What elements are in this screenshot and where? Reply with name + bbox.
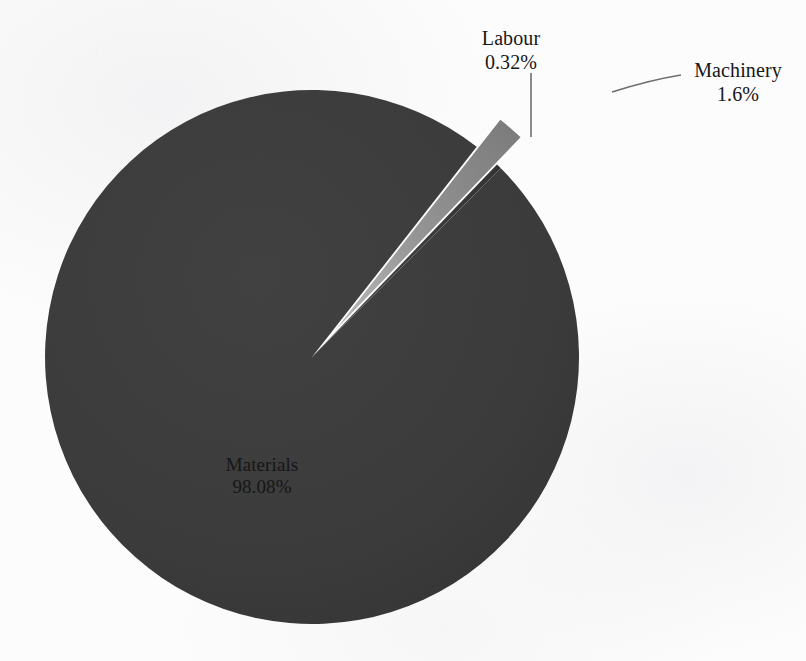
- slice-label-machinery: Machinery 1.6%: [672, 59, 804, 106]
- slice-label-labour-percent: 0.32%: [455, 51, 567, 75]
- slice-label-materials-percent: 98.08%: [192, 476, 332, 498]
- pie-chart-figure: Labour 0.32% Machinery 1.6% Materials 98…: [0, 0, 806, 661]
- leader-line-machinery: [612, 75, 681, 92]
- slice-label-machinery-name: Machinery: [672, 59, 804, 83]
- slice-label-materials: Materials 98.08%: [192, 454, 332, 499]
- slice-label-labour: Labour 0.32%: [455, 27, 567, 74]
- slice-label-materials-name: Materials: [192, 454, 332, 476]
- pie-slice-materials[interactable]: [45, 90, 579, 624]
- slice-label-labour-name: Labour: [455, 27, 567, 51]
- slice-label-machinery-percent: 1.6%: [672, 83, 804, 107]
